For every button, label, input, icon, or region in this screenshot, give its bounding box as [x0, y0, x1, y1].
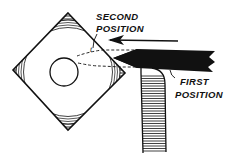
label-first-line1: FIRST [180, 76, 210, 87]
center-bore [50, 58, 78, 86]
tool-post [135, 68, 175, 153]
cutting-tool [113, 49, 215, 72]
feed-arrow-left-icon [108, 35, 178, 45]
label-second-line2: POSITION [96, 23, 145, 34]
diagram: SECOND POSITION FIRST POSITION t [0, 0, 238, 163]
label-second-line1: SECOND [96, 11, 138, 22]
label-first-line2: POSITION [175, 89, 224, 100]
first-position-leader [170, 70, 175, 78]
